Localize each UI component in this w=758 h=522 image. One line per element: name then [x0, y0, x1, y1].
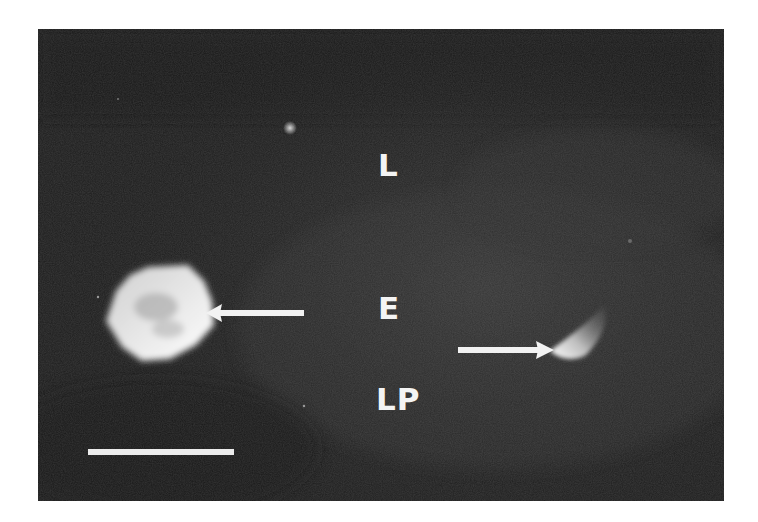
scale-bar — [88, 449, 234, 455]
label-L: L — [378, 150, 399, 181]
micrograph-texture — [38, 29, 724, 501]
label-LP: LP — [376, 384, 420, 415]
label-E: E — [378, 293, 400, 324]
micrograph: L E LP — [38, 29, 724, 501]
figure-canvas: L E LP — [0, 0, 758, 522]
left-arrow-icon — [206, 304, 306, 322]
right-arrow-icon — [458, 341, 554, 359]
